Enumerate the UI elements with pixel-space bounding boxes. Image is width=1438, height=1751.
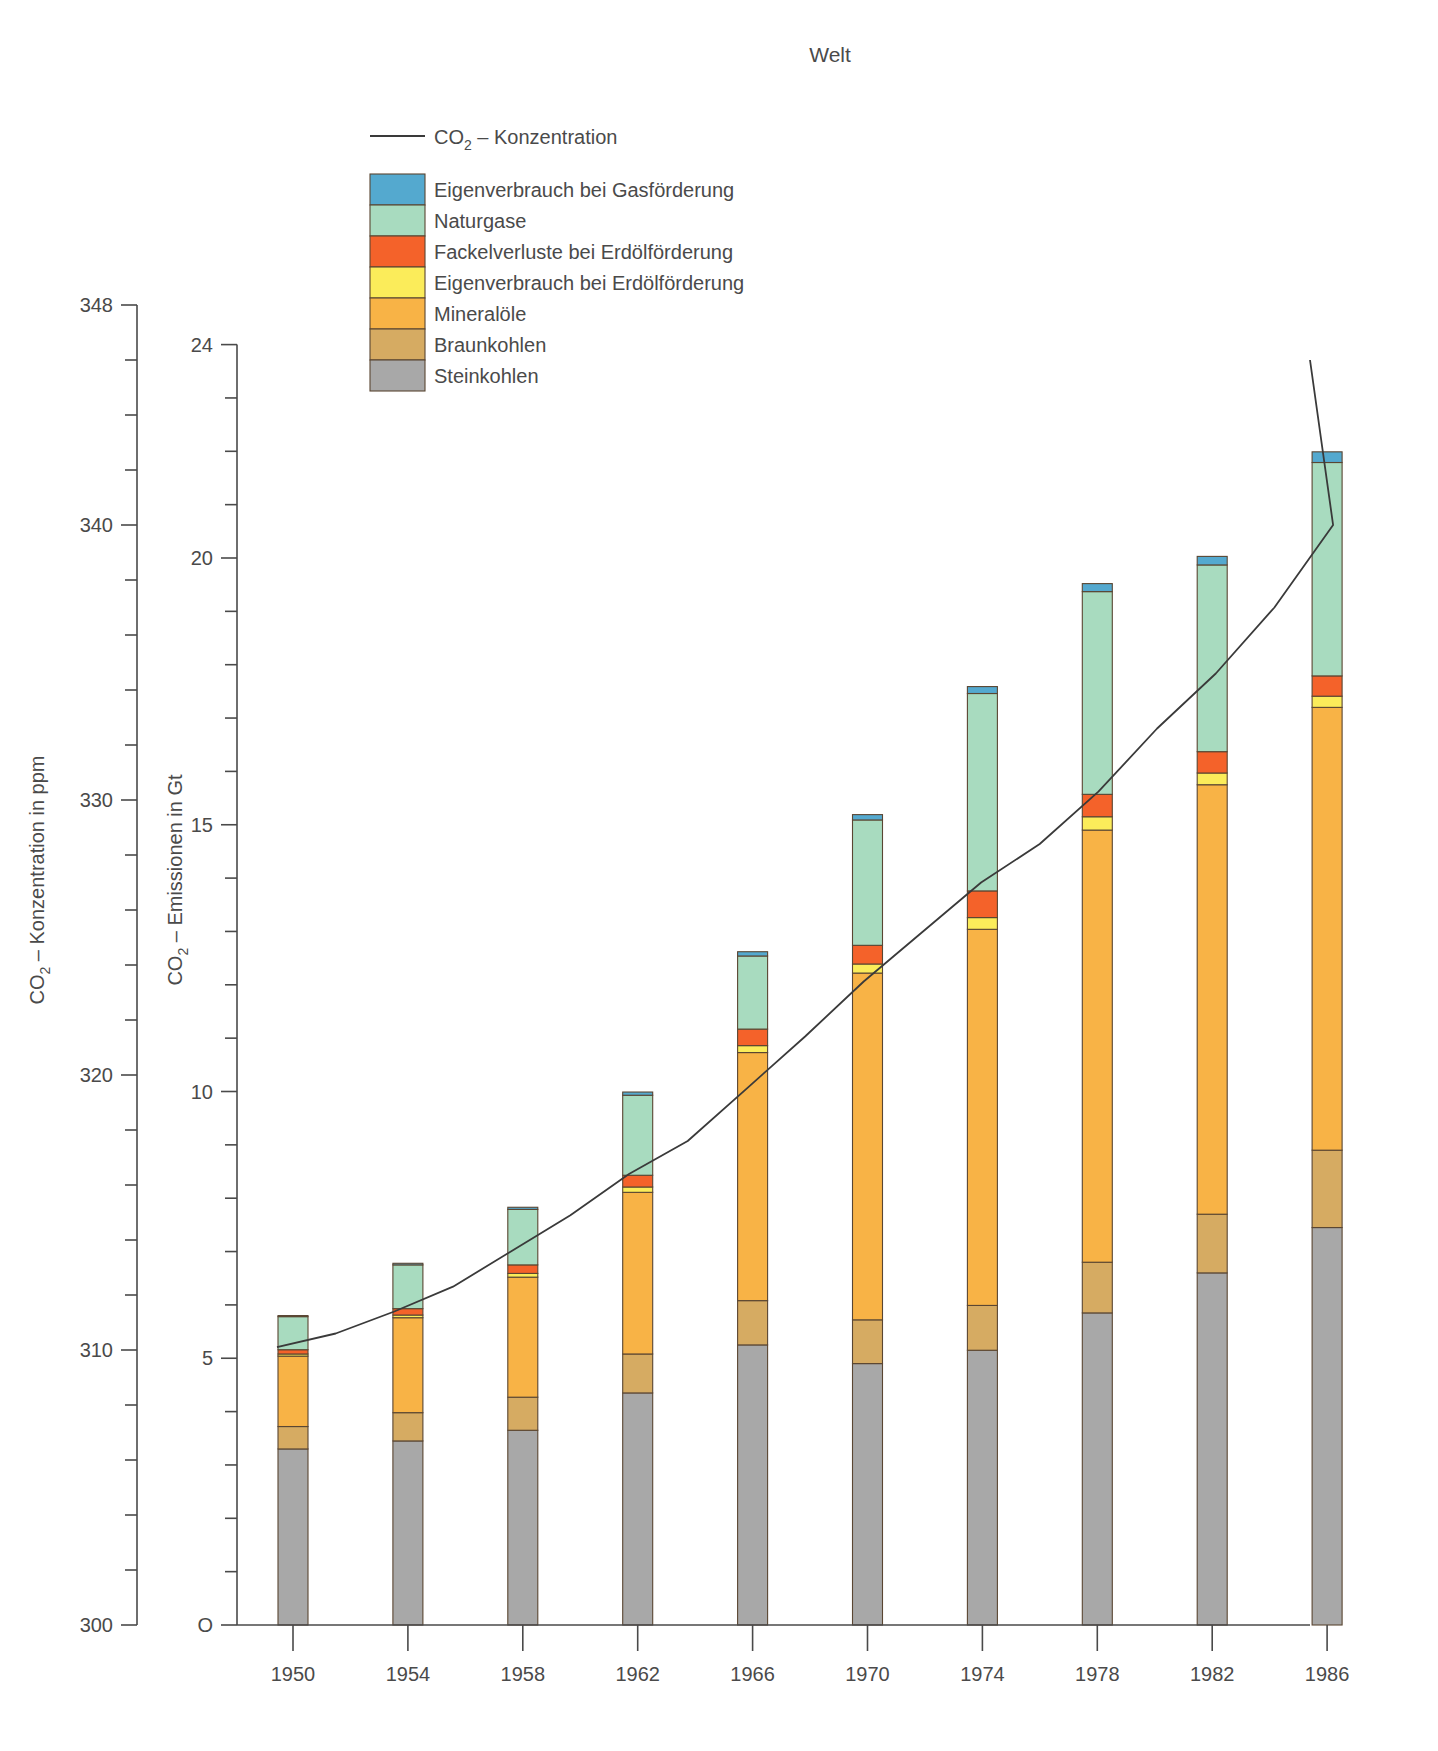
bar-segment-hard_coal [1082,1313,1112,1625]
bar-segment-mineral_oils [853,973,883,1320]
legend-label-flaring: Fackelverluste bei Erdölförderung [434,241,733,263]
bar-stack [623,1092,653,1625]
bar-segment-lignite [967,1305,997,1350]
bar-segment-lignite [853,1320,883,1364]
bar-segment-gas_own_use [1197,556,1227,565]
bar-stack [1197,556,1227,1625]
bar-segment-gas_own_use [853,815,883,820]
bar-segment-natural_gas [1197,565,1227,752]
bar-segment-gas_own_use [967,687,997,694]
x-axis-tick-label: 1978 [1075,1663,1120,1685]
legend-label-hard_coal: Steinkohlen [434,365,539,387]
bar-stack [393,1263,423,1625]
bar-segment-hard_coal [1312,1228,1342,1625]
left-axis-tick-label: 310 [80,1339,113,1361]
legend-swatch-mineral_oils [370,298,425,329]
bar-segment-flaring [508,1265,538,1274]
x-axis-tick-label: 1962 [615,1663,660,1685]
bar-segment-hard_coal [1197,1273,1227,1625]
legend-swatch-natural_gas [370,205,425,236]
bar-segment-gas_own_use [623,1092,653,1095]
bar-segment-mineral_oils [393,1318,423,1413]
emission-axis-tick-label: O [197,1614,213,1636]
bar-segment-mineral_oils [1197,785,1227,1214]
left-axis-tick-label: 340 [80,514,113,536]
bar-segment-gas_own_use [278,1316,308,1317]
legend-swatch-hard_coal [370,360,425,391]
bar-segment-flaring [853,945,883,964]
bar-segment-flaring [278,1350,308,1354]
x-axis-tick-label: 1970 [845,1663,890,1685]
bar-stack [853,815,883,1625]
bar-segment-natural_gas [738,956,768,1029]
page-title: Welt [809,43,851,66]
bar-segment-hard_coal [967,1350,997,1625]
legend-swatch-oil_own_use [370,267,425,298]
bar-segment-lignite [1312,1150,1342,1227]
legend-label-gas_own_use: Eigenverbrauch bei Gasförderung [434,179,734,201]
bar-segment-lignite [278,1427,308,1449]
legend-swatch-gas_own_use [370,174,425,205]
bar-segment-hard_coal [623,1393,653,1625]
bar-segment-mineral_oils [967,929,997,1305]
emission-axis-tick-label: 10 [191,1081,213,1103]
bar-segment-natural_gas [1082,592,1112,795]
bar-segment-gas_own_use [1312,452,1342,463]
bar-segment-natural_gas [967,694,997,891]
bar-segment-mineral_oils [738,1053,768,1301]
bar-stack [738,952,768,1625]
bar-segment-lignite [393,1413,423,1441]
legend-label-lignite: Braunkohlen [434,334,546,356]
bar-segment-flaring [1312,676,1342,696]
bar-segment-hard_coal [508,1430,538,1625]
bar-segment-lignite [623,1354,653,1393]
bar-segment-natural_gas [278,1317,308,1350]
x-axis-tick-label: 1982 [1190,1663,1235,1685]
bar-stack [1082,584,1112,1625]
bar-segment-oil_own_use [623,1187,653,1192]
left-axis-tick-label: 348 [80,294,113,316]
bar-segment-oil_own_use [1197,773,1227,785]
bar-stack [278,1316,308,1625]
bar-segment-lignite [738,1301,768,1345]
bar-segment-flaring [967,891,997,918]
bar-segment-lignite [508,1397,538,1430]
bar-segment-gas_own_use [738,952,768,956]
bar-stack [508,1207,538,1625]
x-axis-tick-label: 1986 [1305,1663,1350,1685]
bar-segment-hard_coal [738,1345,768,1625]
bar-segment-lignite [1082,1262,1112,1313]
legend-label-oil_own_use: Eigenverbrauch bei Erdölförderung [434,272,744,294]
x-axis-tick-label: 1958 [501,1663,546,1685]
bar-segment-mineral_oils [1312,707,1342,1150]
bar-segment-flaring [623,1175,653,1187]
x-axis-tick-label: 1966 [730,1663,775,1685]
emission-axis-tick-label: 24 [191,334,213,356]
bar-stack [1312,452,1342,1625]
legend-swatch-flaring [370,236,425,267]
x-axis-tick-label: 1974 [960,1663,1005,1685]
bar-segment-flaring [738,1029,768,1046]
left-axis-tick-label: 300 [80,1614,113,1636]
bar-segment-natural_gas [1312,463,1342,676]
bar-segment-gas_own_use [508,1207,538,1209]
co2-emissions-chart: Welt CO2 – KonzentrationEigenverbrauch b… [0,0,1438,1751]
bar-stack [967,687,997,1625]
bar-segment-hard_coal [393,1441,423,1625]
bar-segment-mineral_oils [508,1277,538,1397]
bar-segment-oil_own_use [508,1273,538,1277]
bar-segment-oil_own_use [967,918,997,930]
x-axis-tick-label: 1954 [386,1663,431,1685]
emission-axis-tick-label: 20 [191,547,213,569]
bar-segment-flaring [1197,752,1227,773]
left-axis-tick-label: 330 [80,789,113,811]
bar-segment-gas_own_use [393,1263,423,1265]
bar-segment-lignite [1197,1214,1227,1273]
legend-swatch-lignite [370,329,425,360]
left-axis-tick-label: 320 [80,1064,113,1086]
emission-axis-tick-label: 15 [191,814,213,836]
legend-label-mineral_oils: Mineralöle [434,303,526,325]
x-axis-tick-label: 1950 [271,1663,316,1685]
bar-segment-oil_own_use [1082,817,1112,830]
bar-segment-mineral_oils [1082,830,1112,1262]
